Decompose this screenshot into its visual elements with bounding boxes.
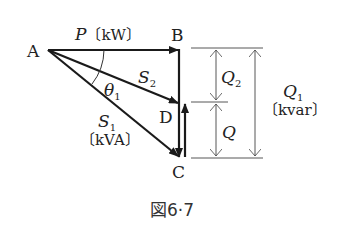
q1-unit: 〔kvar〕 bbox=[263, 101, 327, 119]
angle-arc-theta1 bbox=[92, 50, 104, 84]
theta1-label: θ1 bbox=[104, 80, 121, 102]
q2-subscript: 2 bbox=[235, 78, 241, 89]
q1-label: Q1 bbox=[283, 81, 303, 103]
q2-label: Q2 bbox=[221, 67, 241, 89]
s1-label: S1 bbox=[98, 111, 116, 133]
p-label: P〔kW〕 bbox=[74, 24, 141, 44]
s2-label: S2 bbox=[138, 67, 156, 89]
s1-symbol: S bbox=[98, 111, 110, 131]
p-symbol: P bbox=[74, 24, 87, 44]
p-unit: 〔kW〕 bbox=[86, 26, 141, 44]
theta-symbol: θ bbox=[104, 80, 114, 100]
point-b-label: B bbox=[171, 25, 184, 45]
q1-symbol: Q bbox=[283, 81, 297, 101]
s2-symbol: S bbox=[138, 67, 150, 87]
figure-caption: 図6·7 bbox=[150, 200, 194, 220]
q2-symbol: Q bbox=[221, 67, 235, 87]
power-triangle-diagram: A B D C P〔kW〕 S2 θ1 S1 〔kVA〕 Q2 Q Q1 〔kv… bbox=[0, 0, 347, 227]
point-c-label: C bbox=[172, 162, 185, 182]
s2-subscript: 2 bbox=[150, 78, 156, 89]
s1-unit: 〔kVA〕 bbox=[80, 131, 140, 149]
q-label: Q bbox=[222, 122, 236, 142]
point-a-label: A bbox=[26, 41, 40, 61]
point-d-label: D bbox=[159, 107, 173, 127]
theta-subscript: 1 bbox=[114, 91, 120, 102]
